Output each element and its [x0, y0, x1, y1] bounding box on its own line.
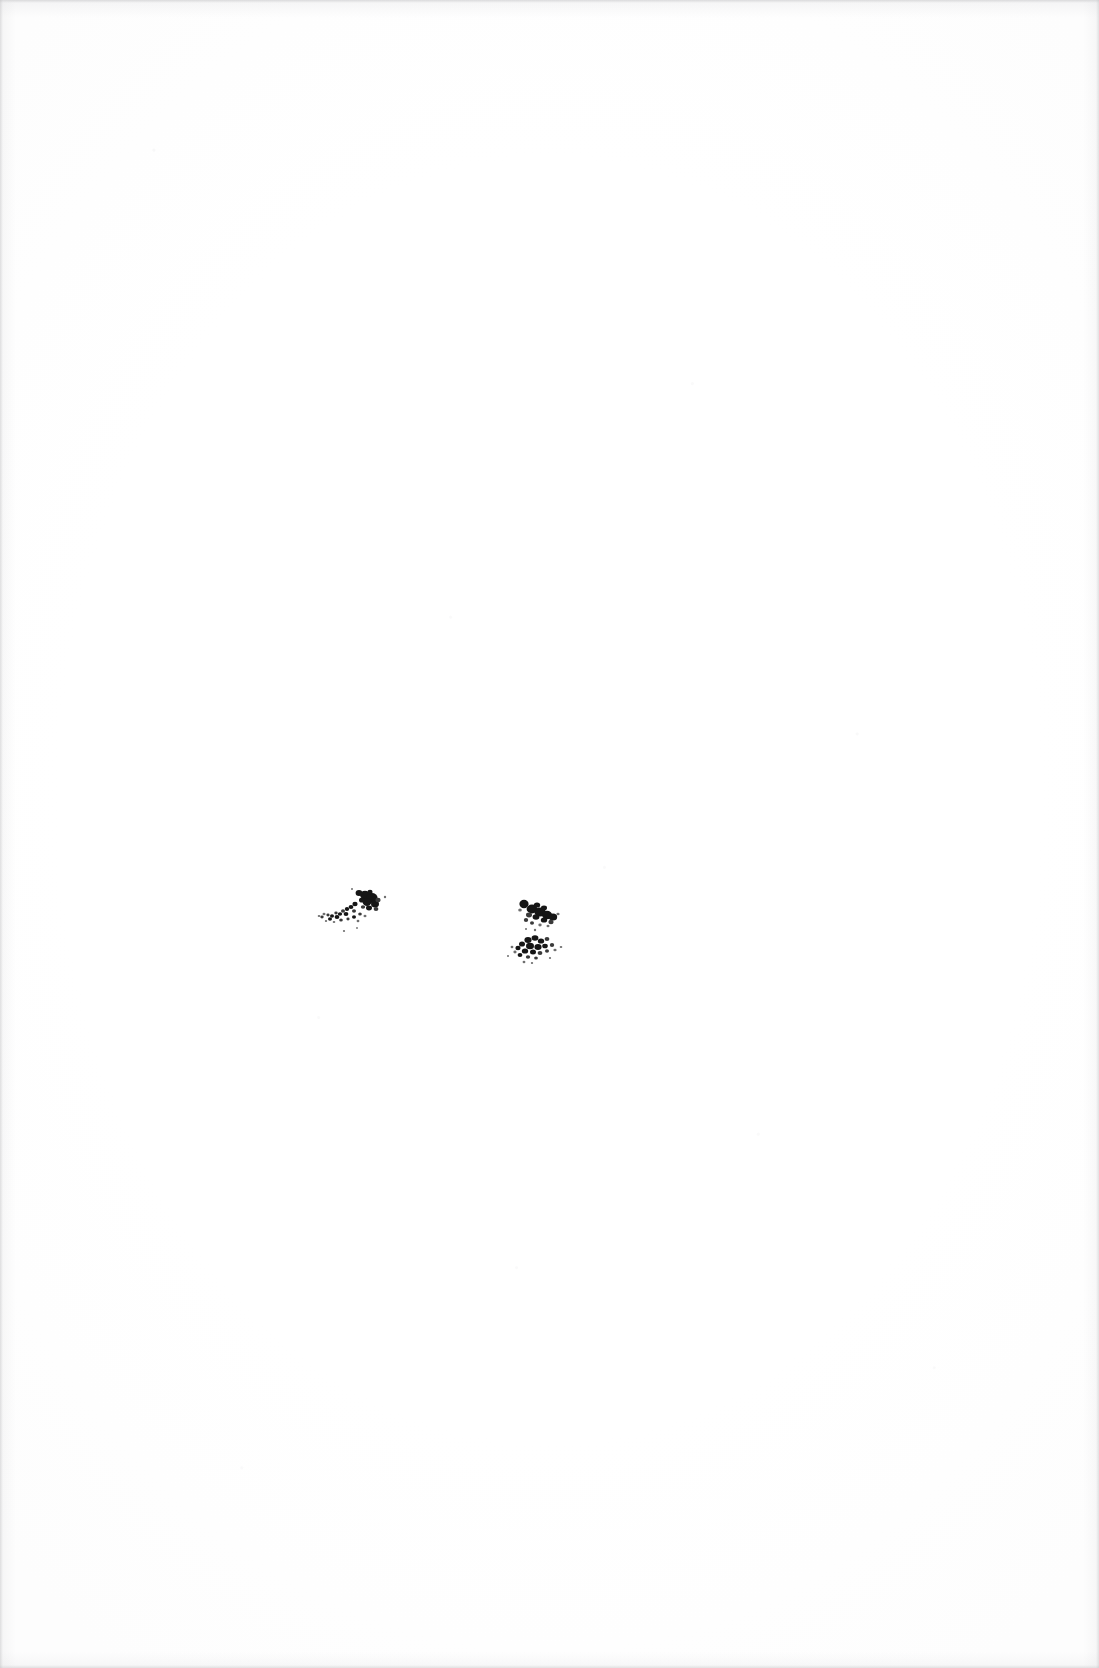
- scanned-page: [0, 0, 1099, 1668]
- paper-surface: [0, 0, 1099, 1668]
